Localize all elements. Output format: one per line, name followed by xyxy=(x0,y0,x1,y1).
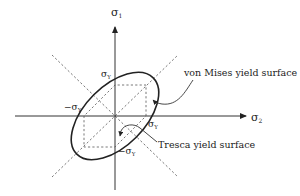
von-mises-annotation: von Mises yield surface xyxy=(183,67,298,78)
sigma2-label: σ2 xyxy=(251,111,263,124)
sigma-y-top-label: σY xyxy=(101,69,111,80)
neg-sigma-y-left-label: −σY xyxy=(64,102,82,113)
tresca-annotation: Tresca yield surface xyxy=(158,139,256,150)
yield-surface-diagram: σ1 σ2 σY −σY σY −σY von Mises yield surf… xyxy=(0,0,300,196)
neg-sigma-y-bottom-label: −σY xyxy=(118,146,136,157)
sigma-y-right-label: σY xyxy=(148,119,158,130)
sigma1-label: σ1 xyxy=(111,6,122,19)
